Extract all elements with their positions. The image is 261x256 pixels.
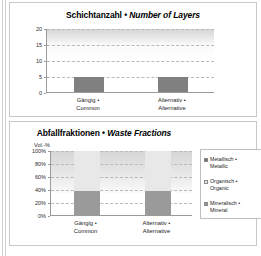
legend-waste-fractions: Metallisch •MetallicOrganisch •OrganicMi…: [200, 149, 261, 219]
y-tick-mark: [48, 190, 50, 191]
legend-item-metallic: Metallisch •Metallic: [204, 157, 260, 175]
y-tick-mark: [48, 216, 50, 217]
y-tick-label: 15: [10, 42, 42, 48]
chart-panel-waste-fractions: Abfallfraktionen • Waste Fractions Vol.-…: [9, 121, 257, 246]
legend-label-en: Organic: [210, 185, 237, 192]
x-axis-label-de: Alternativ •: [132, 97, 212, 105]
x-axis-label-en: Alternative: [132, 105, 212, 113]
gridline-80: [51, 164, 192, 165]
legend-swatch-organic: [204, 180, 208, 184]
y-tick-mark: [44, 45, 46, 46]
bar-segment-organic: [145, 151, 171, 191]
x-axis-label-de: Gängig •: [46, 220, 126, 228]
chart-title-de: Abfallfraktionen: [37, 128, 100, 138]
legend-swatch-metallic: [204, 158, 208, 162]
legend-label-en: Mineral: [210, 207, 240, 214]
chart-title-waste-fractions: Abfallfraktionen • Waste Fractions: [10, 128, 198, 138]
page-edge-rule-outer: [2, 0, 3, 256]
x-axis-label: Alternativ •Alternative: [117, 220, 197, 235]
y-tick-label: 80%: [10, 161, 46, 167]
y-tick-label: 20%: [10, 200, 46, 206]
gridline-40: [51, 190, 192, 191]
gridline-20: [51, 203, 192, 204]
plot-background-wash: [47, 45, 214, 61]
x-axis-label-de: Alternativ •: [117, 220, 197, 228]
bar-segment-mineral: [74, 191, 100, 216]
y-tick-mark: [44, 93, 46, 94]
plot-area-number-of-layers: [46, 29, 214, 93]
chart-title-de: Schichtanzahl: [66, 10, 122, 20]
y-tick-label: 0%: [10, 213, 46, 219]
y-tick-mark: [48, 203, 50, 204]
legend-label-en: Metallic: [210, 163, 237, 170]
x-axis-label-en: Alternative: [117, 228, 197, 236]
x-axis-label-en: Common: [46, 228, 126, 236]
bar-number-of-layers: [74, 77, 104, 93]
y-tick-mark: [48, 164, 50, 165]
y-tick-label: 60%: [10, 174, 46, 180]
chart-title-en: Waste Fractions: [107, 128, 171, 138]
y-tick-mark: [44, 29, 46, 30]
x-axis-label: Gängig •Common: [48, 97, 128, 112]
legend-label-de: Organisch •: [210, 178, 237, 185]
chart-panel-number-of-layers: Schichtanzahl • Number of Layers 2015105…: [9, 2, 257, 117]
chart-title-en: Number of Layers: [129, 10, 200, 20]
y-tick-label: 5: [10, 74, 42, 80]
stacked-bar-waste-fractions: [145, 151, 171, 216]
y-tick-mark: [48, 151, 50, 152]
gridline-20: [47, 29, 214, 30]
y-tick-mark: [44, 61, 46, 62]
stacked-bar-waste-fractions: [74, 151, 100, 216]
legend-label-de: Metallisch •: [210, 156, 237, 163]
bar-number-of-layers: [158, 77, 188, 93]
y-tick-label: 10: [10, 58, 42, 64]
plot-background-band: [51, 151, 192, 193]
plot-area-waste-fractions: [50, 151, 192, 216]
gridline-15: [47, 45, 214, 46]
y-tick-mark: [48, 177, 50, 178]
y-tick-label: 0: [10, 90, 42, 96]
figure-root: Schichtanzahl • Number of Layers 2015105…: [0, 0, 261, 256]
gridline-10: [47, 61, 214, 62]
gridline-100: [51, 151, 192, 152]
x-axis-label: Gängig •Common: [46, 220, 126, 235]
legend-item-mineral: Mineralisch •Mineral: [204, 201, 260, 219]
legend-label: Organisch •Organic: [210, 178, 237, 191]
y-tick-label: 100%: [10, 148, 46, 154]
y-tick-mark: [44, 77, 46, 78]
plot-background-band: [47, 29, 214, 45]
y-tick-label: 40%: [10, 187, 46, 193]
x-axis-label-de: Gängig •: [48, 97, 128, 105]
gridline-5: [47, 77, 214, 78]
bar-segment-mineral: [145, 191, 171, 216]
x-axis-label-en: Common: [48, 105, 128, 113]
legend-label: Mineralisch •Mineral: [210, 200, 240, 213]
y-tick-label: 20: [10, 26, 42, 32]
legend-item-organic: Organisch •Organic: [204, 179, 260, 197]
gridline-60: [51, 177, 192, 178]
legend-label: Metallisch •Metallic: [210, 156, 237, 169]
legend-swatch-mineral: [204, 202, 208, 206]
legend-label-de: Mineralisch •: [210, 200, 240, 207]
bar-segment-organic: [74, 151, 100, 191]
chart-title-number-of-layers: Schichtanzahl • Number of Layers: [10, 10, 256, 20]
page-edge-rule-inner: [5, 0, 6, 256]
x-axis-label: Alternativ •Alternative: [132, 97, 212, 112]
